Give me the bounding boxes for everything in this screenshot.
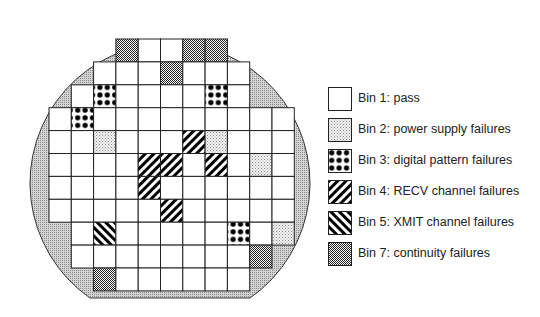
diagonal-down-swatch-icon [328,180,352,204]
die-cell-bin-1 [116,62,138,85]
die-cell-bin-1 [94,62,116,85]
die-cell-bin-1 [49,131,71,154]
die-cell-bin-1 [183,108,205,131]
die-cell-bin-1 [205,199,227,222]
die-cell-bin-4 [183,131,205,154]
die-cell-bin-1 [94,154,116,177]
die-cell-bin-1 [116,154,138,177]
die-cell-bin-1 [116,85,138,108]
die-cell-bin-1 [116,108,138,131]
die-cell-bin-1 [71,85,93,108]
die-cell-bin-1 [49,199,71,222]
legend-label: Bin 5: XMIT channel failures [358,215,514,229]
die-cell-bin-1 [49,154,71,177]
die-cell-bin-7 [94,268,116,291]
die-cell-bin-7 [116,39,138,62]
die-cell-bin-1 [138,199,160,222]
die-cell-bin-1 [227,199,249,222]
die-cell-bin-1 [227,62,249,85]
die-cell-bin-1 [183,268,205,291]
die-cell-bin-4 [138,176,160,199]
die-cell-bin-4 [138,154,160,177]
legend-item-bin-1: Bin 1: pass [328,87,538,112]
die-cell-bin-1 [227,245,249,268]
legend-item-bin-7: Bin 7: continuity failures [328,242,538,267]
die-cell-bin-1 [272,154,294,177]
die-cell-bin-3 [205,85,227,108]
legend-label: Bin 2: power supply failures [358,122,511,136]
die-cell-bin-1 [227,131,249,154]
die-cell-bin-1 [183,199,205,222]
die-cell-bin-1 [205,176,227,199]
die-cell-bin-1 [71,199,93,222]
die-cell-bin-1 [272,108,294,131]
legend-label: Bin 1: pass [358,91,420,105]
die-cell-bin-4 [161,199,183,222]
large-dots-swatch-icon [328,149,352,173]
die-cell-bin-1 [116,245,138,268]
die-cell-bin-3 [94,85,116,108]
die-cell-bin-7 [161,62,183,85]
die-cell-bin-1 [205,108,227,131]
checker-swatch-icon [328,242,352,266]
die-cell-bin-1 [138,62,160,85]
die-cell-bin-1 [116,199,138,222]
die-cell-bin-1 [227,85,249,108]
diagonal-up-swatch-icon [328,211,352,235]
die-cell-bin-1 [94,176,116,199]
die-cell-bin-2 [94,131,116,154]
die-cell-bin-2 [272,222,294,245]
die-cell-bin-1 [250,176,272,199]
die-cell-bin-1 [227,154,249,177]
die-cell-bin-1 [272,199,294,222]
die-cell-bin-2 [250,154,272,177]
die-cell-bin-1 [138,268,160,291]
die-cell-bin-1 [250,199,272,222]
die-cell-bin-1 [183,222,205,245]
die-cell-bin-1 [161,268,183,291]
legend-item-bin-4: Bin 4: RECV channel failures [328,180,538,205]
die-cell-bin-1 [94,199,116,222]
die-cell-bin-1 [205,268,227,291]
die-cell-bin-1 [71,131,93,154]
die-cell-bin-1 [94,108,116,131]
die-cell-bin-1 [49,108,71,131]
legend-item-bin-5: Bin 5: XMIT channel failures [328,211,538,236]
die-cell-bin-4 [161,154,183,177]
die-cell-bin-1 [138,108,160,131]
die-cell-bin-1 [138,245,160,268]
die-cell-bin-7 [205,39,227,62]
die-cell-bin-1 [71,176,93,199]
die-cell-bin-1 [49,176,71,199]
legend-label: Bin 4: RECV channel failures [358,184,519,198]
legend-item-bin-2: Bin 2: power supply failures [328,118,538,143]
die-cell-bin-1 [183,154,205,177]
die-cell-bin-1 [161,222,183,245]
die-cell-bin-1 [227,268,249,291]
die-cell-bin-1 [161,108,183,131]
die-cell-bin-1 [205,222,227,245]
die-cell-bin-7 [250,245,272,268]
die-cell-bin-1 [71,154,93,177]
die-cell-bin-1 [116,176,138,199]
die-cell-bin-7 [183,39,205,62]
die-cell-bin-1 [205,245,227,268]
die-cell-bin-1 [71,245,93,268]
light-dots-swatch-icon [328,118,352,142]
die-cell-bin-1 [116,268,138,291]
die-cell-bin-1 [250,222,272,245]
die-cell-bin-1 [161,245,183,268]
legend-item-bin-3: Bin 3: digital pattern failures [328,149,538,174]
die-cell-bin-3 [71,108,93,131]
die-cell-bin-1 [183,176,205,199]
blank-swatch-icon [328,87,352,111]
die-cell-bin-1 [250,131,272,154]
die-cell-bin-1 [138,222,160,245]
die-cell-bin-1 [138,39,160,62]
die-cell-bin-1 [161,131,183,154]
die-cell-bin-1 [138,131,160,154]
die-cell-bin-1 [161,39,183,62]
die-cell-bin-1 [272,176,294,199]
die-cell-bin-1 [250,108,272,131]
die-cell-bin-1 [116,131,138,154]
